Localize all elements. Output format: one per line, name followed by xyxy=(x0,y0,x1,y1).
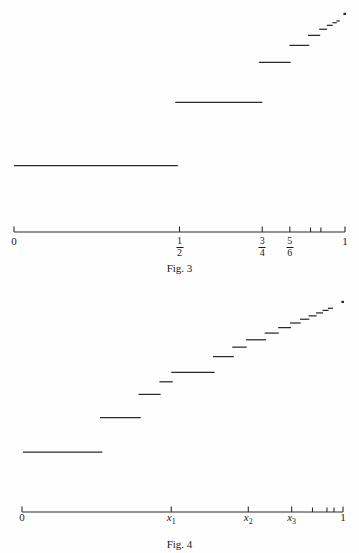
variable-subscript: 1 xyxy=(172,517,176,526)
fraction-numerator: 3 xyxy=(259,236,266,248)
limit-point-dot xyxy=(341,301,344,303)
figure-3-caption: Fig. 3 xyxy=(0,262,359,274)
fraction-denominator: 2 xyxy=(176,248,183,259)
limit-point-dot xyxy=(343,13,346,15)
figure-4-svg xyxy=(0,280,359,515)
fraction-numerator: 5 xyxy=(286,236,293,248)
figure-4: 0x1x2x31 Fig. 4 xyxy=(0,280,359,553)
axis-tick-label: 34 xyxy=(259,236,266,258)
axis-tick-label: 56 xyxy=(286,236,293,258)
axis-tick-label: 12 xyxy=(176,236,183,258)
figure-3-svg xyxy=(0,0,359,240)
fraction-numerator: 1 xyxy=(176,236,183,248)
variable-subscript: 2 xyxy=(249,517,253,526)
axis-tick-label: x2 xyxy=(244,512,253,527)
figure-4-caption: Fig. 4 xyxy=(0,538,359,550)
axis-tick-label: 1 xyxy=(340,512,346,524)
figure-4-limit-point xyxy=(341,301,344,303)
variable-subscript: 3 xyxy=(292,517,296,526)
fraction-denominator: 6 xyxy=(286,248,293,259)
axis-tick-label: 0 xyxy=(19,512,25,524)
axis-tick-label: x1 xyxy=(167,512,176,527)
figure-4-plot-area xyxy=(0,280,359,515)
figure-3-plot-area xyxy=(0,0,359,240)
fraction-denominator: 4 xyxy=(259,248,266,259)
figure-3: 01234561 Fig. 3 xyxy=(0,0,359,280)
figure-3-axis xyxy=(14,227,345,233)
axis-tick-label: 0 xyxy=(11,236,17,248)
figure-page: 01234561 Fig. 3 0x1x2x31 Fig. 4 xyxy=(0,0,359,553)
figure-3-step-segments xyxy=(14,21,340,166)
axis-tick-label: 1 xyxy=(342,236,348,248)
axis-tick-label: x3 xyxy=(287,512,296,527)
figure-3-limit-point xyxy=(343,13,346,15)
figure-4-step-segments xyxy=(23,308,333,452)
